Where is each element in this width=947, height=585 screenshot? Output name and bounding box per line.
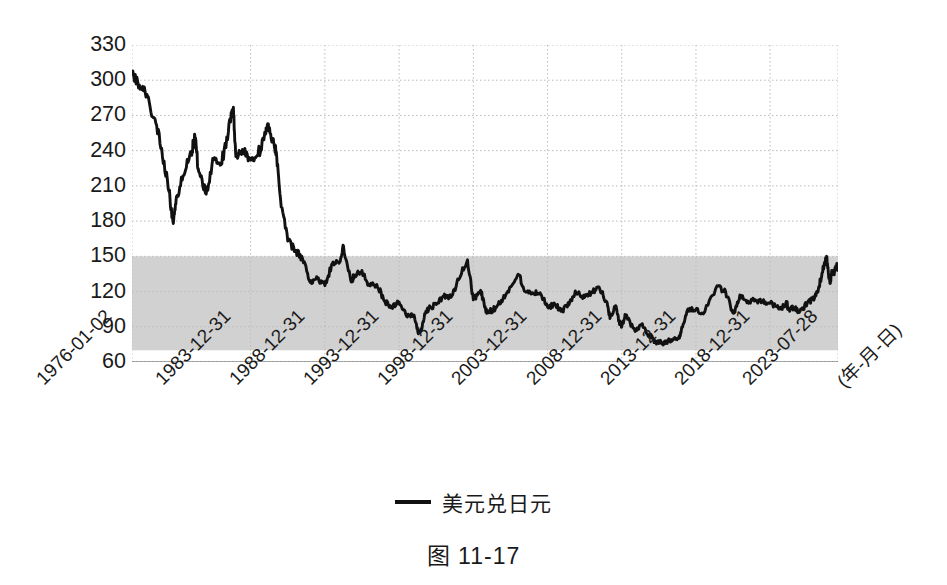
y-axis-tick-label: 90	[64, 316, 126, 338]
legend-item-label: 美元兑日元	[442, 487, 552, 517]
y-axis-tick-label: 150	[64, 246, 126, 268]
y-axis-tick-label: 120	[64, 281, 126, 303]
line-swatch-icon	[395, 500, 431, 504]
y-axis-labels: 3303002702402101801501209060	[62, 45, 126, 362]
y-axis-tick-label: 210	[64, 175, 126, 197]
figure-caption: 图 11-17	[0, 537, 947, 571]
figure-container: 3303002702402101801501209060 1976-01-021…	[0, 0, 947, 585]
y-axis-tick-label: 330	[64, 34, 126, 56]
y-axis-tick-label: 180	[64, 210, 126, 232]
chart-legend: 美元兑日元	[0, 487, 947, 517]
y-axis-tick-label: 270	[64, 105, 126, 127]
y-axis-tick-label: 300	[64, 69, 126, 91]
x-axis-unit-label: (年-月-日)	[830, 316, 906, 392]
chart-canvas	[132, 45, 838, 362]
y-axis-tick-label: 240	[64, 140, 126, 162]
plot-area	[132, 45, 838, 362]
y-axis-tick-label: 60	[64, 351, 126, 373]
